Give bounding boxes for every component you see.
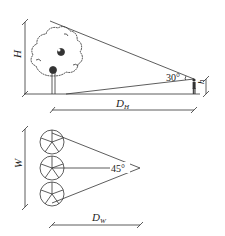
tree-plan-icon-1: [40, 130, 64, 154]
sight-line-top: [50, 21, 194, 79]
viewing-angle-diagram: H 30° h DH: [0, 0, 225, 236]
horizontal-view-diagram: [22, 126, 143, 228]
distance-h-label: DH: [115, 97, 130, 111]
height-label: H: [11, 49, 23, 59]
sight-line-lower: [52, 168, 140, 203]
width-label: W: [12, 158, 24, 168]
tree-canopy-icon: [31, 27, 82, 76]
tree-plan-icon-3: [40, 182, 64, 206]
distance-w-label: DW: [91, 211, 107, 225]
angle-45-label: 45°: [111, 163, 125, 174]
eye-height-label: h: [196, 79, 206, 84]
angle-30-label: 30°: [166, 72, 180, 83]
